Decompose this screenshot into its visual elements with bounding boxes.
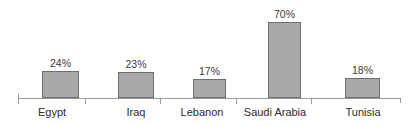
x-axis-category-label-lebanon: Lebanon xyxy=(168,105,236,119)
bar-value-label: 23% xyxy=(118,58,154,70)
x-axis-category-label-iraq: Iraq xyxy=(106,105,166,119)
bar-value-label: 17% xyxy=(192,65,227,77)
bar-value-label: 18% xyxy=(345,64,380,76)
bar-chart: 24% 23% 17% 70% 18% Egypt Iraq Lebanon S… xyxy=(0,0,413,126)
bar-lebanon xyxy=(193,79,226,98)
bar-saudi-arabia xyxy=(268,22,301,98)
bar-tunisia xyxy=(345,78,380,98)
x-axis-category-label-egypt: Egypt xyxy=(22,105,82,119)
x-axis-tick xyxy=(236,99,237,104)
bar-value-label: 70% xyxy=(267,8,302,20)
plot-area: 24% 23% 17% 70% 18% Egypt Iraq Lebanon S… xyxy=(0,0,413,126)
x-axis-line xyxy=(18,98,401,99)
x-axis-tick xyxy=(18,99,19,104)
bar-value-label: 24% xyxy=(42,57,79,69)
x-axis-tick xyxy=(311,99,312,104)
x-axis-category-label-tunisia: Tunisia xyxy=(332,105,394,119)
bar-egypt xyxy=(42,71,79,98)
x-axis-tick xyxy=(160,99,161,104)
x-axis-right-end-tick xyxy=(400,98,401,103)
x-axis-category-label-saudi-arabia: Saudi Arabia xyxy=(238,105,312,119)
bar-iraq xyxy=(118,72,154,98)
x-axis-tick xyxy=(85,99,86,104)
